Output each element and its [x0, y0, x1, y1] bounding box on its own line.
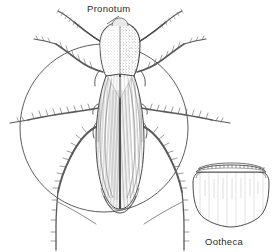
- leg-front-left: [34, 36, 103, 72]
- forewings: [96, 74, 144, 213]
- leg-hind-left: [51, 126, 98, 250]
- cockroach-figure: Pronotum Ootheca: [0, 0, 280, 252]
- label-pronotum: Pronotum: [87, 4, 131, 14]
- label-ootheca: Ootheca: [205, 237, 243, 247]
- illustration-canvas: [0, 0, 280, 252]
- ootheca-keel: [196, 163, 266, 172]
- leg-front-right: [137, 36, 206, 72]
- pronotum: [100, 22, 140, 78]
- leg-hind-right: [142, 126, 189, 250]
- leg-mid-left: [10, 104, 99, 123]
- cockroach-body: [96, 18, 144, 213]
- ootheca: [193, 163, 269, 227]
